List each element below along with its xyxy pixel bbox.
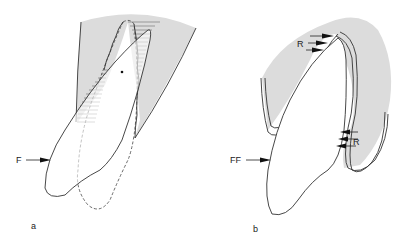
- force-label-f: F: [16, 155, 22, 165]
- resorption-label-upper: R: [297, 39, 304, 49]
- panel-b: R R FF b: [230, 18, 391, 235]
- figure-diagram: F a R: [0, 0, 408, 251]
- force-arrow-ff: FF: [230, 155, 271, 165]
- panel-caption-a: a: [31, 221, 36, 231]
- resorption-label-lower: R: [353, 137, 360, 147]
- rotation-center-dot: [121, 71, 124, 74]
- panel-caption-b: b: [253, 224, 258, 234]
- force-label-ff: FF: [230, 155, 241, 165]
- force-arrow-f: F: [16, 155, 51, 165]
- panel-a: F a: [16, 14, 196, 231]
